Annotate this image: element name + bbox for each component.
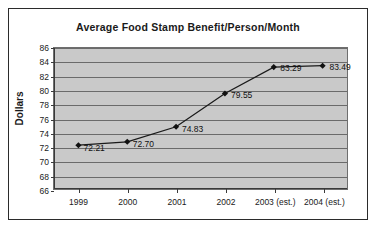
y-axis-title: Dollars (14, 79, 25, 139)
y-axis-tick-label: 68 (40, 172, 49, 182)
data-point-label: 83.49 (329, 62, 350, 72)
x-axis-tick-label: 2004 (est.) (304, 197, 345, 207)
x-axis-tick-label: 2002 (217, 197, 236, 207)
x-axis-tick-label: 2000 (118, 197, 137, 207)
y-axis-tick-label: 80 (40, 86, 49, 96)
chart-title: Average Food Stamp Benefit/Person/Month (9, 21, 367, 33)
x-axis-tick-label: 1999 (69, 197, 88, 207)
y-axis-tick-mark (51, 191, 54, 192)
data-point-label: 83.29 (280, 63, 301, 73)
x-axis-tick-mark (226, 189, 227, 193)
y-axis-tick-label: 70 (40, 157, 49, 167)
x-axis-tick-label: 2003 (est.) (255, 197, 296, 207)
y-axis-tick-label: 66 (40, 186, 49, 196)
data-point-marker (75, 142, 81, 148)
data-point-marker (320, 63, 326, 69)
x-axis-tick-mark (177, 189, 178, 193)
data-point-label: 74.83 (182, 124, 203, 134)
y-axis-tick-label: 86 (40, 43, 49, 53)
plot-area: 6668707274767880828486 19992000200120022… (53, 47, 348, 190)
x-axis-tick-mark (79, 189, 80, 193)
y-axis-tick-label: 82 (40, 72, 49, 82)
data-series-line (54, 48, 347, 189)
data-point-label: 72.21 (84, 143, 105, 153)
data-point-marker (124, 139, 130, 145)
data-point-marker (271, 64, 277, 70)
y-axis-tick-label: 72 (40, 143, 49, 153)
data-point-label: 72.70 (133, 139, 154, 149)
y-axis-tick-label: 78 (40, 100, 49, 110)
x-axis-tick-mark (128, 189, 129, 193)
data-point-label: 79.55 (231, 90, 252, 100)
chart-frame: Average Food Stamp Benefit/Person/Month … (8, 8, 368, 220)
x-axis-tick-mark (324, 189, 325, 193)
x-axis-tick-label: 2001 (167, 197, 186, 207)
y-axis-tick-label: 74 (40, 129, 49, 139)
y-axis-tick-label: 84 (40, 57, 49, 67)
y-axis-tick-label: 76 (40, 115, 49, 125)
x-axis-tick-mark (275, 189, 276, 193)
